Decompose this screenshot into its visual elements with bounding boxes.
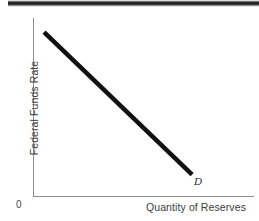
x-axis-line xyxy=(33,196,254,197)
y-axis-label: Federal Funds Rate xyxy=(28,35,40,181)
demand-curve-line xyxy=(44,32,192,174)
figure-container: Federal Funds Rate Quantity of Reserves … xyxy=(0,0,259,221)
origin-label: 0 xyxy=(16,199,22,210)
demand-curve-label: D xyxy=(194,175,202,187)
plot-area: Federal Funds Rate Quantity of Reserves … xyxy=(0,0,259,221)
x-axis-label: Quantity of Reserves xyxy=(140,201,252,213)
